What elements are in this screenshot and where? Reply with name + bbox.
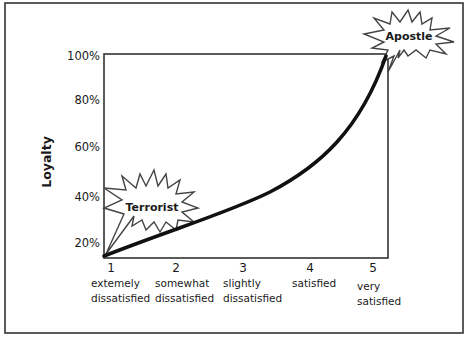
y-axis-ticks: 100% 80% 60% 40% 20%	[67, 49, 100, 250]
x-tick-label: 4	[306, 261, 314, 275]
x-tick-label: 2	[172, 261, 180, 275]
x-category-labels: extemely dissatisfied somewhat dissatisf…	[91, 277, 401, 307]
terrorist-starburst: Terrorist	[104, 170, 198, 254]
y-tick-label: 40%	[74, 190, 100, 204]
y-tick-label: 80%	[74, 93, 100, 107]
x-category-label: dissatisfied	[155, 292, 214, 304]
x-category-label: dissatisfied	[223, 292, 282, 304]
y-axis-title: Loyalty	[39, 136, 54, 188]
x-axis-ticks: 1 2 3 4 5	[107, 261, 377, 275]
x-category-label: slightly	[223, 277, 261, 289]
apostle-label: Apostle	[386, 30, 433, 43]
y-tick-label: 60%	[74, 140, 100, 154]
terrorist-label: Terrorist	[126, 201, 179, 214]
chart: Loyalty 100% 80% 60% 40% 20% 1 2 3 4 5 e…	[0, 0, 468, 344]
y-tick-label: 100%	[67, 49, 100, 63]
x-category-label: satisfied	[292, 277, 336, 289]
x-tick-label: 3	[239, 261, 247, 275]
apostle-starburst: Apostle	[364, 10, 454, 72]
x-category-label: satisfied	[357, 295, 401, 307]
x-category-label: dissatisfied	[91, 292, 150, 304]
x-category-label: somewhat	[155, 277, 209, 289]
x-tick-label: 1	[107, 261, 115, 275]
x-category-label: very	[357, 280, 380, 292]
x-tick-label: 5	[369, 261, 377, 275]
x-category-label: extemely	[91, 277, 140, 289]
y-tick-label: 20%	[74, 236, 100, 250]
